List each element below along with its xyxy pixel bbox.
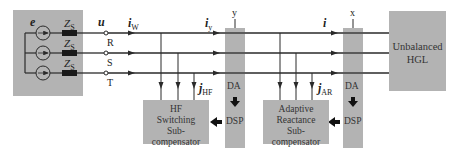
current-label-jar: jAR	[318, 83, 332, 98]
impedance-label-s: ZS	[64, 38, 75, 53]
da-label-y: DA	[227, 81, 241, 91]
impedance-label-r: ZS	[64, 18, 75, 33]
dsp-label-y: DSP	[226, 116, 243, 126]
da-label-x: DA	[345, 81, 359, 91]
emf-label: e	[30, 17, 35, 28]
current-label-iw: iW	[128, 18, 139, 33]
ar-taps	[280, 33, 312, 100]
hf-taps	[161, 33, 194, 100]
point-label-x: x	[350, 7, 355, 18]
hf-subcompensator-label: HF Switching Sub-compensator	[143, 104, 209, 148]
point-label-y: y	[232, 7, 237, 18]
current-label-i: i	[323, 18, 326, 29]
current-label-jhf: jHF	[199, 83, 213, 98]
impedance-label-t: ZS	[64, 58, 75, 73]
dsp-label-x: DSP	[344, 116, 361, 126]
phase-label-r: R	[107, 37, 114, 48]
voltage-label-u: u	[98, 17, 105, 28]
unbalanced-hgl-label: Unbalanced HGL	[389, 40, 446, 66]
current-label-iy: iy	[205, 18, 212, 33]
ar-subcompensator-label: Adaptive Reactance Sub-compensator	[263, 104, 329, 148]
phase-label-s: S	[107, 57, 113, 68]
phase-label-t: T	[107, 77, 113, 88]
